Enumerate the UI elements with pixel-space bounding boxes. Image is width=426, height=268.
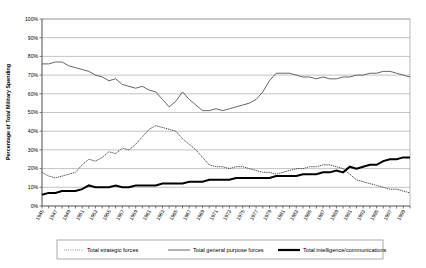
x-axis-tick-label: 1959	[128, 208, 139, 221]
legend-label-strategic: Total strategic forces	[87, 247, 138, 253]
y-axis-tick-label: 30%	[28, 147, 39, 153]
y-axis-tick-label: 0%	[31, 203, 39, 209]
x-axis-tick-label: 1975	[235, 208, 246, 221]
x-axis-tick-label: 1993	[355, 208, 366, 221]
y-axis-tick-label: 50%	[28, 109, 39, 115]
y-axis-tick-label: 100%	[25, 16, 38, 22]
x-axis-tick-label: 1961	[141, 208, 152, 221]
x-axis-tick-label: 1985	[302, 208, 313, 221]
legend-label-intelligence: Total intelligence/communications	[303, 247, 387, 253]
x-axis-tick-label: 1949	[61, 208, 72, 221]
x-axis-tick-label: 1945	[34, 208, 45, 221]
x-axis-tick-label: 1947	[48, 208, 59, 221]
y-axis-tick-label: 40%	[28, 128, 39, 134]
legend-item-strategic: Total strategic forces	[64, 247, 138, 253]
x-axis-tick-label: 1989	[329, 208, 340, 221]
x-axis-tick-label: 1981	[275, 208, 286, 221]
x-axis-tick-label: 1979	[262, 208, 273, 221]
x-axis-tick-label: 1967	[181, 208, 192, 221]
y-axis-tick-label: 70%	[28, 72, 39, 78]
x-axis-tick-label: 1963	[155, 208, 166, 221]
x-axis-tick-label: 1953	[88, 208, 99, 221]
x-axis-tick-labels: 1945194719491951195319551957195919611963…	[34, 208, 406, 221]
y-axis-tick-label: 90%	[28, 35, 39, 41]
x-axis-tick-label: 1969	[195, 208, 206, 221]
legend-label-general-purpose: Total general purpose forces	[193, 247, 264, 253]
x-axis-tick-label: 1999	[396, 208, 407, 221]
y-axis-tick-label: 10%	[28, 184, 39, 190]
y-axis-tick-label: 20%	[28, 165, 39, 171]
x-axis-tick-label: 1973	[222, 208, 233, 221]
x-axis-tick-label: 1965	[168, 208, 179, 221]
x-axis-tick-label: 1983	[288, 208, 299, 221]
x-axis-tick-label: 1971	[208, 208, 219, 221]
y-axis-title: Percentage of Total Military Spending	[5, 64, 11, 160]
x-axis-tick-label: 1957	[114, 208, 125, 221]
x-axis-tick-label: 1997	[382, 208, 393, 221]
y-axis-tick-label: 60%	[28, 91, 39, 97]
y-axis-tick-labels: 0%10%20%30%40%50%60%70%80%90%100%	[25, 16, 38, 209]
legend-item-general-purpose: Total general purpose forces	[168, 247, 264, 253]
line-chart: 0%10%20%30%40%50%60%70%80%90%100% 194519…	[0, 0, 426, 268]
x-axis-tick-label: 1987	[315, 208, 326, 221]
x-axis-tick-label: 1991	[342, 208, 353, 221]
x-axis-tick-label: 1955	[101, 208, 112, 221]
y-axis-tick-label: 80%	[28, 53, 39, 59]
x-axis-tick-label: 1951	[74, 208, 85, 221]
chart-legend: Total strategic forces Total general pur…	[57, 240, 387, 259]
x-axis-tick-label: 1977	[248, 208, 259, 221]
chart-container: 0%10%20%30%40%50%60%70%80%90%100% 194519…	[0, 0, 426, 268]
x-axis-tick-label: 1995	[369, 208, 380, 221]
legend-item-intelligence: Total intelligence/communications	[278, 247, 387, 253]
